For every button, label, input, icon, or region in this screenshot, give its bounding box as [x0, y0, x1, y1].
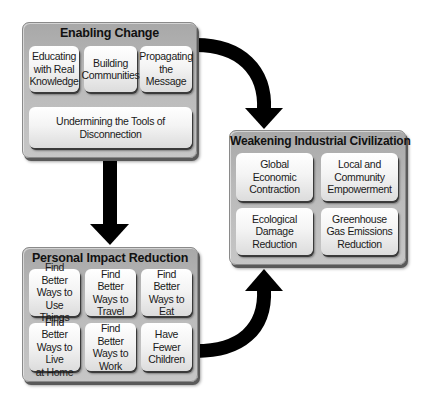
arrow-enabling-to-personal — [90, 156, 129, 245]
arrow-enabling-to-weakening — [196, 45, 283, 129]
card-ecological-damage-reduction: Ecological Damage Reduction — [236, 208, 313, 255]
card-have-fewer-children: Have Fewer Children — [141, 323, 192, 371]
group-title-enabling-change: Enabling Change — [23, 26, 196, 40]
card-building-communities: Building Communities — [84, 46, 137, 92]
card-propagating-the-message: Propagating the Message — [140, 46, 192, 92]
card-global-economic-contraction: Global Economic Contraction — [236, 153, 313, 201]
card-label: Find Better Ways to Eat — [143, 268, 190, 318]
card-label: Find Better Ways to Live at Home — [31, 316, 78, 379]
card-undermining-tools-of-disconnection: Undermining the Tools of Disconnection — [29, 107, 192, 148]
card-local-and-community-empowerment: Local and Community Empowerment — [321, 153, 398, 201]
group-enabling-change: Enabling Change Educating with Real Know… — [22, 22, 197, 158]
group-personal-impact-reduction: Personal Impact Reduction Find Better Wa… — [22, 247, 198, 382]
card-find-better-ways-to-use-things: Find Better Ways to Use Things — [29, 269, 80, 316]
card-find-better-ways-to-eat: Find Better Ways to Eat — [141, 269, 192, 316]
card-label: Have Fewer Children — [148, 328, 185, 366]
card-educating-with-real-knowledge: Educating with Real Knowledge — [29, 46, 79, 92]
card-label: Greenhouse Gas Emissions Reduction — [326, 213, 392, 251]
card-label: Find Better Ways to Use Things — [31, 261, 78, 324]
card-label: Educating with Real Knowledge — [29, 50, 78, 88]
card-find-better-ways-to-live-at-home: Find Better Ways to Live at Home — [29, 323, 80, 371]
card-label: Find Better Ways to Work — [87, 322, 134, 372]
card-greenhouse-gas-emissions-reduction: Greenhouse Gas Emissions Reduction — [321, 208, 398, 255]
arrow-personal-to-weakening — [196, 269, 283, 351]
card-label: Undermining the Tools of Disconnection — [31, 115, 190, 140]
group-title-weakening-industrial-civilization: Weakening Industrial Civilization — [230, 134, 405, 148]
card-label: Find Better Ways to Travel — [87, 268, 134, 318]
group-weakening-industrial-civilization: Weakening Industrial Civilization Global… — [229, 130, 406, 265]
card-label: Global Economic Contraction — [238, 158, 311, 196]
card-label: Ecological Damage Reduction — [252, 213, 297, 251]
card-label: Propagating the Message — [139, 50, 192, 88]
card-label: Local and Community Empowerment — [327, 158, 391, 196]
card-label: Building Communities — [82, 57, 140, 82]
card-find-better-ways-to-work: Find Better Ways to Work — [85, 323, 136, 371]
card-find-better-ways-to-travel: Find Better Ways to Travel — [85, 269, 136, 316]
